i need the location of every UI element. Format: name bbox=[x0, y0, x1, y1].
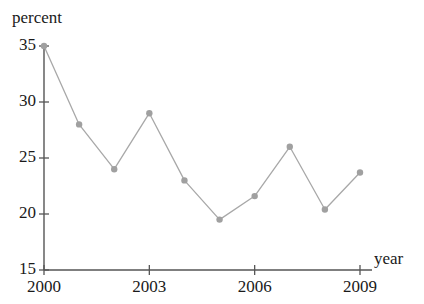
data-point-marker bbox=[41, 43, 47, 49]
y-axis-tick-label: 30 bbox=[6, 91, 36, 111]
y-axis-tick-label: 15 bbox=[6, 259, 36, 279]
x-axis-tick-label: 2009 bbox=[330, 277, 390, 297]
x-axis-tick-label: 2006 bbox=[225, 277, 285, 297]
line-chart: percent year 1520253035 2000200320062009 bbox=[0, 0, 424, 304]
plot-area bbox=[0, 0, 424, 304]
data-point-marker bbox=[357, 169, 363, 175]
data-point-marker bbox=[216, 216, 222, 222]
y-axis-tick-label: 20 bbox=[6, 203, 36, 223]
axes bbox=[44, 46, 372, 270]
data-point-marker bbox=[181, 177, 187, 183]
data-point-marker bbox=[251, 193, 257, 199]
data-point-marker bbox=[111, 166, 117, 172]
data-line bbox=[44, 46, 360, 220]
y-axis-tick-label: 35 bbox=[6, 35, 36, 55]
data-point-marker bbox=[76, 121, 82, 127]
data-point-markers bbox=[41, 43, 363, 223]
y-axis-tick-label: 25 bbox=[6, 147, 36, 167]
x-axis-tick-label: 2000 bbox=[14, 277, 74, 297]
x-axis-tick-label: 2003 bbox=[119, 277, 179, 297]
data-point-marker bbox=[322, 206, 328, 212]
data-point-marker bbox=[146, 110, 152, 116]
data-point-marker bbox=[287, 144, 293, 150]
